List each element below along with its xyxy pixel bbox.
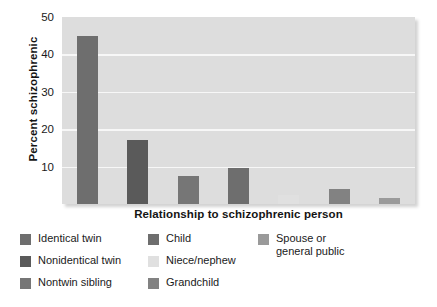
legend-label: Child [166,232,191,245]
legend-swatch-icon [20,278,31,289]
bar-1 [77,36,98,204]
legend-item: Spouse or general public [258,232,418,247]
y-tick-label-40: 40 [41,48,54,60]
bar-4 [228,168,249,204]
y-axis-tick-labels: 5040302010 [22,17,58,204]
legend-item: Niece/nephew [148,254,258,269]
legend-item: Nonidentical twin [20,254,148,269]
legend-swatch-icon [20,256,31,267]
plot-area [62,17,415,204]
y-tick-label-30: 30 [41,86,54,98]
legend-item: Nontwin sibling [20,276,148,291]
legend-swatch-icon [258,234,269,245]
legend-label: Grandchild [166,276,219,289]
legend: Identical twinNonidentical twinNontwin s… [20,232,420,302]
legend-swatch-icon [20,234,31,245]
bar-series [62,17,415,204]
bar-7 [379,198,400,204]
y-tick-label-20: 20 [41,123,54,135]
legend-swatch-icon [148,256,159,267]
legend-item: Child [148,232,258,247]
legend-item: Grandchild [148,276,258,291]
x-axis-title: Relationship to schizophrenic person [62,208,415,220]
bar-3 [178,176,199,204]
legend-item: Identical twin [20,232,148,247]
legend-label: Identical twin [38,232,102,245]
bar-chart-figure: Percent schizophrenic 5040302010 Relatio… [0,0,437,307]
legend-swatch-icon [148,278,159,289]
legend-column-3: Spouse or general public [258,232,418,254]
legend-swatch-icon [148,234,159,245]
legend-label: Niece/nephew [166,254,236,267]
y-tick-label-50: 50 [41,11,54,23]
bar-2 [127,140,148,204]
y-tick-label-10: 10 [41,161,54,173]
bar-6 [329,189,350,204]
legend-label: Nontwin sibling [38,276,112,289]
legend-label: Spouse or general public [276,232,345,257]
legend-column-1: Identical twinNonidentical twinNontwin s… [20,232,148,298]
legend-column-2: ChildNiece/nephewGrandchild [148,232,258,298]
legend-label: Nonidentical twin [38,254,121,267]
bar-5 [278,195,299,204]
